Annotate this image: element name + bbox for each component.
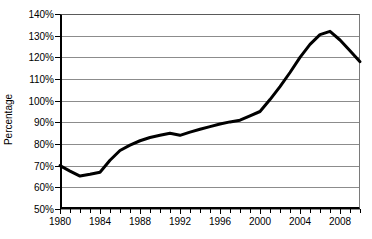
y-tick-label: 70%: [8, 160, 54, 171]
x-tick-mark: [260, 209, 261, 214]
x-tick-mark: [120, 209, 121, 213]
y-tick-label: 90%: [8, 117, 54, 128]
y-tick-label: 110%: [8, 74, 54, 85]
x-tick-mark: [70, 209, 71, 213]
x-tick-mark: [80, 209, 81, 213]
x-tick-mark: [220, 209, 221, 214]
y-tick-label: 80%: [8, 139, 54, 150]
x-tick-mark: [90, 209, 91, 213]
y-tick-label: 130%: [8, 30, 54, 41]
x-tick-label: 1980: [49, 216, 71, 227]
x-tick-mark: [290, 209, 291, 213]
series-line-percentage: [60, 14, 360, 209]
x-tick-mark: [310, 209, 311, 213]
plot-area: [60, 14, 360, 209]
x-tick-label: 1984: [89, 216, 111, 227]
x-tick-mark: [170, 209, 171, 213]
x-tick-mark: [130, 209, 131, 213]
x-tick-mark: [270, 209, 271, 213]
x-axis-tick-marks: [60, 209, 361, 215]
x-tick-mark: [320, 209, 321, 213]
x-tick-mark: [330, 209, 331, 213]
x-tick-mark: [300, 209, 301, 214]
x-tick-label: 1988: [129, 216, 151, 227]
x-tick-label: 1996: [209, 216, 231, 227]
x-tick-label: 1992: [169, 216, 191, 227]
x-tick-mark: [280, 209, 281, 213]
y-tick-label: 100%: [8, 95, 54, 106]
percentage-line-chart: Percentage 140%130%120%110%100%90%80%70%…: [0, 0, 372, 239]
x-tick-mark: [250, 209, 251, 213]
x-tick-mark: [190, 209, 191, 213]
x-tick-mark: [200, 209, 201, 213]
x-tick-mark: [180, 209, 181, 214]
y-tick-label: 120%: [8, 52, 54, 63]
x-tick-mark: [350, 209, 351, 213]
x-tick-mark: [340, 209, 341, 214]
x-tick-mark: [110, 209, 111, 213]
x-tick-mark: [160, 209, 161, 213]
x-tick-mark: [100, 209, 101, 214]
x-tick-mark: [240, 209, 241, 213]
x-tick-label: 2004: [289, 216, 311, 227]
x-axis-tick-labels: 19801984198819921996200020042008: [0, 216, 372, 230]
x-tick-label: 2000: [249, 216, 271, 227]
y-tick-label: 140%: [8, 9, 54, 20]
x-tick-mark: [360, 209, 361, 213]
x-tick-label: 2008: [329, 216, 351, 227]
y-tick-label: 50%: [8, 204, 54, 215]
x-tick-mark: [210, 209, 211, 213]
x-tick-mark: [150, 209, 151, 213]
y-axis-tick-labels: 140%130%120%110%100%90%80%70%60%50%: [8, 14, 54, 209]
x-tick-mark: [140, 209, 141, 214]
x-tick-mark: [60, 209, 61, 214]
y-tick-label: 60%: [8, 182, 54, 193]
x-tick-mark: [230, 209, 231, 213]
